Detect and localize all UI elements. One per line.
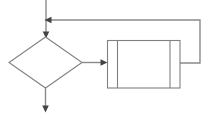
connector-decision-to-process	[82, 59, 108, 66]
flowchart-svg	[0, 0, 217, 119]
exit-arrow-arrowhead-down-icon	[42, 106, 49, 113]
node-decision	[9, 37, 82, 88]
predefined-process-outer-rect	[108, 41, 181, 89]
node-predefined-process	[108, 41, 181, 89]
flowchart-diagram-canvas	[0, 0, 217, 119]
connector-exit-arrow	[42, 88, 49, 113]
decision-diamond-shape	[9, 37, 82, 88]
decision-to-process-arrowhead-right-icon	[101, 59, 108, 66]
